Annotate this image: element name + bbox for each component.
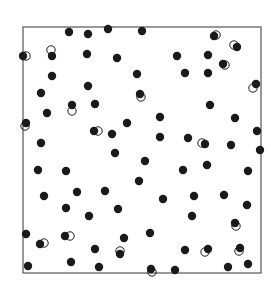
filled-data-point	[108, 130, 116, 138]
filled-data-point	[19, 52, 27, 60]
filled-data-point	[188, 212, 196, 220]
filled-data-point	[201, 140, 209, 148]
scatter-plot	[0, 0, 271, 284]
filled-data-point	[22, 230, 30, 238]
filled-data-point	[252, 80, 260, 88]
filled-points	[19, 25, 264, 274]
filled-data-point	[114, 205, 122, 213]
filled-data-point	[34, 166, 42, 174]
filled-data-point	[61, 232, 69, 240]
filled-data-point	[116, 250, 124, 258]
filled-data-point	[68, 101, 76, 109]
filled-data-point	[253, 127, 261, 135]
filled-data-point	[84, 30, 92, 38]
filled-data-point	[136, 90, 144, 98]
filled-data-point	[91, 100, 99, 108]
filled-data-point	[84, 82, 92, 90]
filled-data-point	[90, 127, 98, 135]
filled-data-point	[190, 192, 198, 200]
filled-data-point	[113, 54, 121, 62]
filled-data-point	[220, 191, 228, 199]
filled-data-point	[227, 141, 235, 149]
filled-data-point	[85, 212, 93, 220]
filled-data-point	[244, 167, 252, 175]
filled-data-point	[73, 188, 81, 196]
filled-data-point	[204, 245, 212, 253]
filled-data-point	[224, 263, 232, 271]
filled-data-point	[135, 177, 143, 185]
filled-data-point	[244, 260, 252, 268]
filled-data-point	[204, 51, 212, 59]
filled-data-point	[36, 240, 44, 248]
filled-data-point	[156, 113, 164, 121]
filled-data-point	[101, 187, 109, 195]
filled-data-point	[141, 157, 149, 165]
filled-data-point	[111, 149, 119, 157]
filled-data-point	[171, 266, 179, 274]
filled-data-point	[40, 192, 48, 200]
filled-data-point	[147, 265, 155, 273]
filled-data-point	[231, 219, 239, 227]
filled-data-point	[173, 52, 181, 60]
filled-data-point	[62, 204, 70, 212]
filled-data-point	[184, 134, 192, 142]
filled-data-point	[243, 201, 251, 209]
filled-data-point	[181, 69, 189, 77]
filled-data-point	[231, 114, 239, 122]
filled-data-point	[67, 258, 75, 266]
filled-data-point	[256, 146, 264, 154]
filled-data-point	[206, 101, 214, 109]
filled-data-point	[22, 119, 30, 127]
filled-data-point	[120, 234, 128, 242]
filled-data-point	[24, 262, 32, 270]
filled-data-point	[62, 167, 70, 175]
filled-data-point	[138, 27, 146, 35]
filled-data-point	[219, 60, 227, 68]
filled-data-point	[159, 195, 167, 203]
filled-data-point	[123, 119, 131, 127]
filled-data-point	[43, 109, 51, 117]
filled-data-point	[91, 245, 99, 253]
filled-data-point	[83, 50, 91, 58]
filled-data-point	[104, 25, 112, 33]
filled-data-point	[48, 72, 56, 80]
filled-data-point	[203, 161, 211, 169]
filled-data-point	[37, 89, 45, 97]
filled-data-point	[204, 69, 212, 77]
filled-data-point	[181, 246, 189, 254]
filled-data-point	[179, 166, 187, 174]
filled-data-point	[133, 70, 141, 78]
filled-data-point	[48, 52, 56, 60]
filled-data-point	[65, 28, 73, 36]
filled-data-point	[210, 32, 218, 40]
filled-data-point	[236, 244, 244, 252]
filled-data-point	[95, 263, 103, 271]
filled-data-point	[233, 43, 241, 51]
filled-data-point	[37, 139, 45, 147]
filled-data-point	[146, 229, 154, 237]
filled-data-point	[156, 133, 164, 141]
